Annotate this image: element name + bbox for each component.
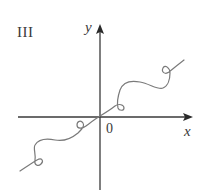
origin-label: 0 xyxy=(106,122,113,136)
x-axis-label: x xyxy=(184,124,191,139)
y-axis-label: y xyxy=(85,20,92,35)
curve xyxy=(20,60,184,171)
graph-figure: III y x 0 xyxy=(0,0,200,190)
panel-label: III xyxy=(17,25,34,40)
